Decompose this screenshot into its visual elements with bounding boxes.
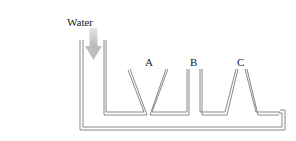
vessel-c-label: C	[237, 57, 244, 68]
water-label: Water	[67, 17, 93, 28]
vessel-a-right-wall-inner	[150, 69, 189, 115]
vessel-c-wall-inner	[247, 69, 279, 115]
tube-walls	[80, 40, 285, 130]
vessel-b-wall-inner	[202, 69, 238, 115]
water-arrow-icon	[85, 28, 102, 60]
vessel-a-label: A	[145, 57, 153, 68]
inlet-right-wall-inner	[106, 40, 144, 112]
vessel-b-wall	[200, 69, 236, 112]
vessel-b-label: B	[190, 57, 197, 68]
vessel-a-right-wall	[152, 69, 187, 112]
vessel-c-wall	[245, 69, 280, 112]
outer-wall-inner	[83, 40, 282, 127]
outer-wall	[80, 40, 285, 130]
communicating-vessels-diagram: Water A B C	[0, 0, 296, 141]
